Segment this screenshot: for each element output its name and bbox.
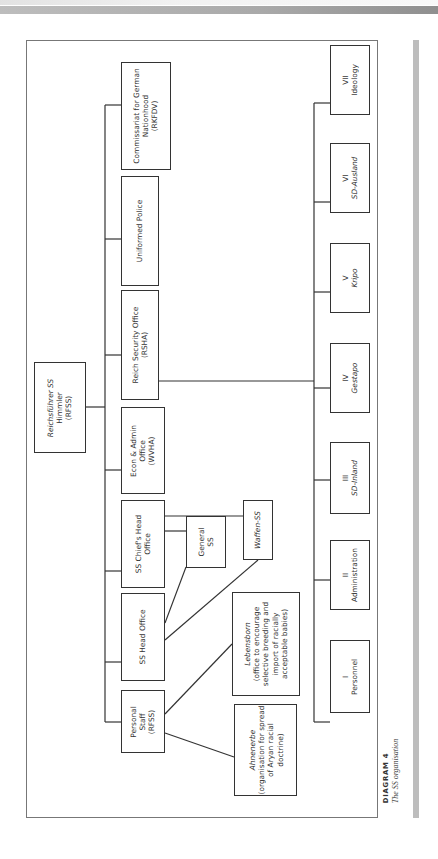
dept-numeral: II (341, 548, 350, 602)
box-personal-staff: Personal Staff (RFSS) (121, 690, 165, 753)
dept-numeral: VII (341, 64, 350, 96)
box-dept-iii: III SD-Inland (330, 442, 370, 514)
box-ahnenerbe: Ahnenerbe (organisation for spread of Ar… (234, 704, 297, 796)
box-dept-iv: IV Gestapo (330, 343, 370, 413)
label-line: Reich Security Office (131, 307, 140, 384)
box-general-ss: General SS (186, 516, 226, 568)
root-title: Reichsführer SS (46, 378, 55, 436)
box-dept-vii: VII Ideology (330, 45, 370, 115)
label-line: import of racially (271, 602, 280, 686)
dept-numeral: I (341, 658, 350, 694)
dept-name: SD-Inland (350, 460, 359, 496)
label-line: Uniformed Police (135, 200, 144, 262)
label-line: Commissariat for German (132, 68, 141, 163)
box-dept-ii: II Administration (330, 540, 370, 610)
label-line: Personal (129, 706, 138, 737)
label-line: General (197, 527, 206, 556)
label-line: SS (206, 527, 215, 556)
box-dept-vi: VI SD-Ausland (330, 143, 370, 213)
dept-name: SD-Ausland (350, 157, 359, 200)
root-abbrev: (RFSS) (65, 378, 74, 436)
page-side-bar (413, 40, 419, 818)
label-line: doctrine) (275, 706, 284, 795)
box-ss-head-office: SS Head Office (121, 593, 165, 681)
label-line: SS Head Office (138, 610, 147, 665)
dept-numeral: VI (341, 157, 350, 200)
dept-numeral: IV (341, 363, 350, 394)
label-line: Office (143, 515, 152, 573)
caption-title: DIAGRAM 4 (382, 739, 391, 804)
label-line: Ahnenerbe (247, 706, 256, 795)
label-line: (RSHA) (140, 307, 149, 384)
diagram-caption: DIAGRAM 4 The SS organisation (381, 722, 401, 820)
label-line: Econ & Admin (129, 425, 138, 477)
label-line: of Aryan racial (266, 706, 275, 795)
root-box-reichsfuhrer: Reichsführer SS Himmler (RFSS) (34, 362, 86, 453)
label-line: (RKFDV) (151, 68, 160, 163)
root-name: Himmler (55, 378, 64, 436)
dept-numeral: V (341, 268, 350, 287)
label-line: Waffen-SS (253, 511, 262, 549)
label-line: (RFSS) (148, 706, 157, 737)
dept-name: Ideology (350, 64, 359, 96)
box-dept-v: V Kripo (330, 243, 370, 313)
box-lebensborn: Lebensborn (office to encourage selectiv… (232, 592, 300, 696)
box-uniformed-police: Uniformed Police (121, 176, 159, 286)
box-ss-chiefs-head-office: SS Chief's Head Office (121, 500, 165, 588)
dept-name: Kripo (350, 268, 359, 287)
box-econ-admin-office: Econ & Admin Office (WVHA) (121, 407, 165, 494)
box-reich-security-office: Reich Security Office (RSHA) (121, 290, 159, 400)
label-line: Office (138, 425, 147, 477)
label-line: acceptable babies) (280, 602, 289, 686)
dept-numeral: III (341, 460, 350, 496)
dept-name: Administration (350, 548, 359, 602)
box-waffen-ss: Waffen-SS (243, 500, 273, 560)
dept-name: Personnel (350, 658, 359, 694)
label-line: selective breeding and (261, 602, 270, 686)
label-line: (WVHA) (148, 425, 157, 477)
label-line: Lebensborn (243, 602, 252, 686)
caption-subtitle: The SS organisation (391, 739, 400, 804)
box-commissariat: Commissariat for German Nationhood (RKFD… (121, 62, 171, 170)
dept-name: Gestapo (350, 363, 359, 394)
label-line: (organisation for spread (256, 706, 265, 795)
label-line: SS Chief's Head (134, 515, 143, 573)
label-line: (office to encourage (252, 602, 261, 686)
box-dept-i: I Personnel (330, 640, 370, 713)
label-line: Nationhood (141, 68, 150, 163)
label-line: Staff (138, 706, 147, 737)
